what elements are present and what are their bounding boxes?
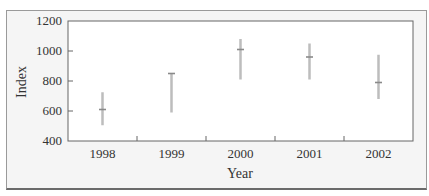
y-axis: 40060080010001200 [36,13,73,148]
x-tick-label: 1998 [90,146,116,161]
x-tick-label: 2000 [228,146,254,161]
y-tick-label: 800 [43,73,63,88]
y-tick-label: 400 [43,133,63,148]
range-chart: 40060080010001200 19981999200020012002 Y… [0,0,429,196]
x-tick-label: 1999 [159,146,185,161]
y-tick-label: 1000 [36,43,62,58]
x-tick-label: 2001 [297,146,323,161]
x-tick-label: 2002 [366,146,392,161]
y-axis-title: Index [14,66,29,98]
x-axis-title: Year [227,166,253,181]
y-tick-label: 600 [43,103,63,118]
y-tick-label: 1200 [36,13,62,28]
